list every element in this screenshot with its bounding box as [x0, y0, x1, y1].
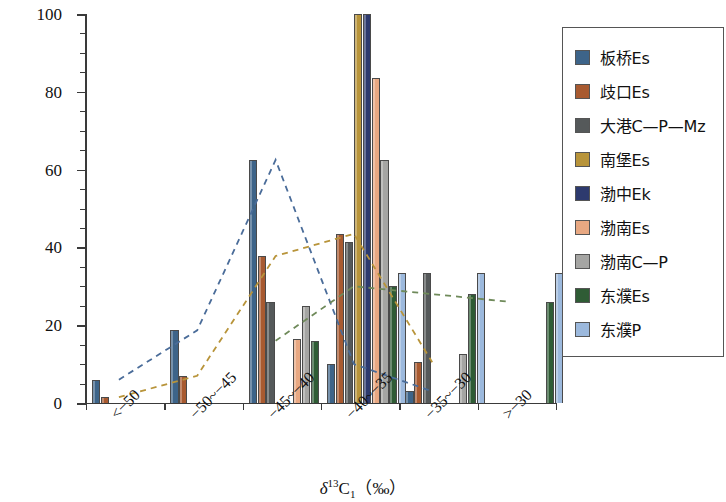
y-axis-tick-labels: 020406080100	[22, 0, 62, 420]
x-tick	[399, 403, 400, 410]
x-tick	[164, 403, 165, 410]
y-tick-label: 100	[26, 5, 62, 25]
legend-color-swatch	[575, 152, 590, 167]
legend-color-swatch	[575, 288, 590, 303]
x-tick	[556, 403, 557, 410]
legend-box: 板桥Es歧口Es大港C—P—Mz南堡Es渤中Ek渤南Es渤南C—P东濮Es东濮P	[562, 27, 724, 357]
y-tick-major	[77, 247, 86, 249]
legend-item[interactable]: 渤南C—P	[575, 244, 723, 278]
y-tick-major	[77, 92, 86, 94]
x-axis-tick-labels: <−50−50~−45−45~−40−40~−35−35~−30>−30	[86, 410, 556, 470]
x-title-superscript: 13	[328, 477, 339, 489]
y-tick-major	[77, 403, 86, 405]
legend-item[interactable]: 板桥Es	[575, 40, 723, 74]
y-tick-label: 0	[26, 394, 62, 414]
legend-item[interactable]: 歧口Es	[575, 74, 723, 108]
legend-label: 渤南Es	[600, 215, 650, 239]
legend-label: 歧口Es	[600, 79, 650, 103]
x-tick	[321, 403, 322, 410]
legend-color-swatch	[575, 84, 590, 99]
legend-label: 渤南C—P	[600, 249, 668, 273]
legend-color-swatch	[575, 118, 590, 133]
y-tick-major	[77, 14, 86, 16]
x-axis-title: δ13C1（‰）	[0, 474, 726, 500]
y-tick-major	[77, 325, 86, 327]
x-tick	[478, 403, 479, 410]
trend-lines	[86, 14, 556, 403]
x-tick	[243, 403, 244, 410]
legend-color-swatch	[575, 322, 590, 337]
legend-item[interactable]: 渤中Ek	[575, 176, 723, 210]
x-title-unit: （‰）	[355, 479, 406, 498]
y-tick-label: 60	[26, 161, 62, 181]
legend-label: 南堡Es	[600, 147, 650, 171]
x-title-delta: δ	[320, 479, 328, 498]
legend-item[interactable]: 东濮P	[575, 312, 723, 346]
x-tick	[86, 403, 87, 410]
y-tick-label: 40	[26, 238, 62, 258]
y-tick-label: 80	[26, 83, 62, 103]
y-tick-major	[77, 170, 86, 172]
chart-figure: 样品数占比（%） 020406080100 <−50−50~−45−45~−40…	[0, 0, 726, 502]
legend-item[interactable]: 东濮Es	[575, 278, 723, 312]
x-title-element: C	[339, 479, 350, 498]
legend-color-swatch	[575, 254, 590, 269]
legend-label: 大港C—P—Mz	[600, 113, 705, 137]
trend-line	[276, 286, 511, 341]
legend-color-swatch	[575, 50, 590, 65]
legend-label: 东濮P	[600, 317, 641, 341]
trend-line	[119, 160, 432, 391]
legend-label: 板桥Es	[600, 45, 650, 69]
legend-label: 东濮Es	[600, 283, 650, 307]
legend-label: 渤中Ek	[600, 181, 651, 205]
legend-color-swatch	[575, 186, 590, 201]
legend-item[interactable]: 南堡Es	[575, 142, 723, 176]
legend-item[interactable]: 渤南Es	[575, 210, 723, 244]
legend-item[interactable]: 大港C—P—Mz	[575, 108, 723, 142]
legend-color-swatch	[575, 220, 590, 235]
plot-area	[86, 14, 556, 403]
y-tick-label: 20	[26, 316, 62, 336]
